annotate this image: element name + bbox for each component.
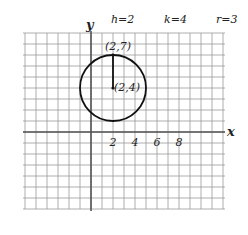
x-tick-label: 4 bbox=[131, 136, 139, 149]
x-tick-label: 2 bbox=[109, 136, 117, 149]
top-point bbox=[112, 54, 115, 57]
y-axis-label: y bbox=[85, 17, 95, 32]
center-label: (2,4) bbox=[114, 81, 140, 94]
top-point-label: (2,7) bbox=[105, 40, 131, 53]
x-tick-label: 8 bbox=[176, 136, 183, 149]
x-tick-label: 6 bbox=[154, 136, 161, 149]
grid bbox=[23, 33, 225, 209]
r-value-label: r=3 bbox=[216, 13, 237, 26]
coordinate-plane: x y 2468 (2,4) (2,7) h=2 k=4 r=3 bbox=[0, 0, 248, 235]
x-axis-label: x bbox=[226, 124, 235, 139]
k-value-label: k=4 bbox=[164, 13, 187, 26]
h-value-label: h=2 bbox=[111, 13, 134, 26]
x-tick-labels: 2468 bbox=[109, 136, 183, 149]
